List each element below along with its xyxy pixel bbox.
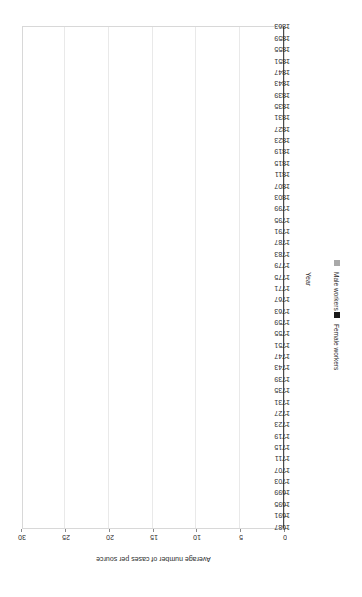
- year-tick-label: 1779: [274, 262, 290, 269]
- value-tick: [240, 529, 241, 532]
- year-tick-label: 1863: [274, 23, 290, 30]
- value-tick-label: 25: [58, 534, 74, 541]
- year-tick-label: 1843: [274, 80, 290, 87]
- value-tick-label: 30: [14, 534, 30, 541]
- year-tick-label: 1767: [274, 296, 290, 303]
- year-tick-label: 1795: [274, 217, 290, 224]
- value-tick-label: 0: [277, 534, 293, 541]
- year-tick-label: 1787: [274, 239, 290, 246]
- value-tick-label: 20: [102, 534, 118, 541]
- year-tick-label: 1715: [274, 444, 290, 451]
- year-tick-label: 1859: [274, 35, 290, 42]
- year-tick-label: 1739: [274, 376, 290, 383]
- value-tick-label: 5: [233, 534, 249, 541]
- year-tick-label: 1703: [274, 478, 290, 485]
- year-tick-label: 1755: [274, 330, 290, 337]
- gridline: [195, 27, 196, 528]
- gridline: [239, 27, 240, 528]
- value-tick: [109, 529, 110, 532]
- year-tick-label: 1763: [274, 308, 290, 315]
- value-tick: [21, 529, 22, 532]
- gridline: [108, 27, 109, 528]
- year-tick-label: 1771: [274, 285, 290, 292]
- chart-figure: 051015202530 Average number of cases per…: [0, 0, 362, 597]
- year-tick-label: 1831: [274, 114, 290, 121]
- year-tick-label: 1775: [274, 274, 290, 281]
- year-tick-label: 1751: [274, 342, 290, 349]
- year-tick-label: 1839: [274, 92, 290, 99]
- year-tick-label: 1707: [274, 467, 290, 474]
- gridline: [64, 27, 65, 528]
- plot-area: [22, 26, 285, 529]
- year-tick-label: 1747: [274, 353, 290, 360]
- value-tick: [65, 529, 66, 532]
- legend-label: Female workers: [333, 324, 340, 370]
- year-tick-label: 1695: [274, 501, 290, 508]
- year-tick-label: 1807: [274, 183, 290, 190]
- year-tick-label: 1723: [274, 421, 290, 428]
- year-tick-label: 1731: [274, 399, 290, 406]
- year-tick-label: 1783: [274, 251, 290, 258]
- year-tick-label: 1847: [274, 69, 290, 76]
- year-tick-label: 1691: [274, 512, 290, 519]
- legend-swatch: [334, 312, 340, 318]
- year-tick-label: 1815: [274, 160, 290, 167]
- gridline: [152, 27, 153, 528]
- year-tick-label: 1743: [274, 364, 290, 371]
- year-tick-label: 1799: [274, 205, 290, 212]
- year-tick-label: 1719: [274, 433, 290, 440]
- value-tick: [153, 529, 154, 532]
- value-tick: [196, 529, 197, 532]
- year-tick-label: 1819: [274, 148, 290, 155]
- year-tick-label: 1803: [274, 194, 290, 201]
- year-tick-label: 1823: [274, 137, 290, 144]
- year-tick-label: 1759: [274, 319, 290, 326]
- year-tick-label: 1827: [274, 126, 290, 133]
- legend-swatch: [334, 260, 340, 266]
- year-tick-label: 1835: [274, 103, 290, 110]
- legend: Male workersFemale workers: [330, 250, 360, 360]
- value-tick-label: 10: [189, 534, 205, 541]
- year-tick-label: 1791: [274, 228, 290, 235]
- year-tick-label: 1699: [274, 489, 290, 496]
- year-tick-label: 1727: [274, 410, 290, 417]
- year-axis-title: Year: [305, 272, 312, 286]
- year-tick-label: 1855: [274, 46, 290, 53]
- year-tick-label: 1811: [275, 171, 290, 178]
- year-tick-label: 1711: [275, 455, 290, 462]
- legend-label: Male workers: [333, 272, 340, 311]
- value-tick-label: 15: [146, 534, 162, 541]
- year-tick-label: 1735: [274, 387, 290, 394]
- value-axis-title: Average number of cases per source: [22, 556, 285, 563]
- year-tick-label: 1687: [274, 524, 290, 531]
- year-tick-label: 1851: [274, 58, 290, 65]
